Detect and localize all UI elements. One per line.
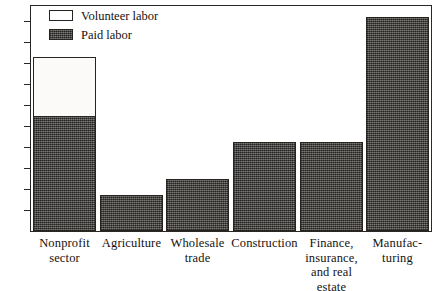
- bar-segment-paid[interactable]: [233, 142, 296, 231]
- bar-segment-paid[interactable]: [300, 142, 363, 231]
- legend-label: Volunteer labor: [81, 9, 158, 23]
- bar-construction[interactable]: [233, 142, 296, 231]
- legend-item-volunteer-labor[interactable]: Volunteer labor: [49, 8, 158, 23]
- bar-segment-paid[interactable]: [366, 17, 429, 231]
- x-label-line: turing: [356, 251, 440, 266]
- volunteer-swatch-icon: [49, 10, 73, 21]
- x-label-line: and real: [290, 265, 374, 280]
- bar-segment-volunteer[interactable]: [33, 57, 96, 117]
- paid-swatch-icon: [49, 29, 73, 40]
- bar-segment-paid[interactable]: [166, 179, 229, 232]
- chart-legend: Volunteer labor Paid labor: [49, 8, 158, 46]
- bar-agriculture[interactable]: [100, 195, 163, 231]
- x-axis-label-manufacturing: Manufac- turing: [356, 236, 440, 265]
- x-label-line: sector: [23, 251, 107, 266]
- legend-label: Paid labor: [81, 28, 132, 42]
- bar-manufacturing[interactable]: [366, 17, 429, 231]
- bar-nonprofit-sector[interactable]: [33, 57, 96, 231]
- bar-chart: 20 18 16 14 12 10 8 6: [0, 0, 441, 291]
- x-label-line: estate: [290, 280, 374, 291]
- x-label-line: trade: [156, 251, 240, 266]
- x-label-line: Manufac-: [356, 236, 440, 251]
- bar-finance-insurance-real-estate[interactable]: [300, 142, 363, 231]
- bar-segment-paid[interactable]: [100, 195, 163, 231]
- bar-segment-paid[interactable]: [33, 116, 96, 232]
- bar-wholesale-trade[interactable]: [166, 179, 229, 232]
- legend-item-paid-labor[interactable]: Paid labor: [49, 27, 158, 42]
